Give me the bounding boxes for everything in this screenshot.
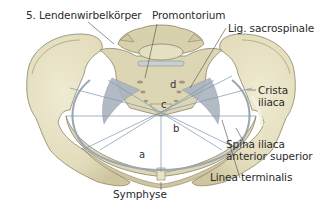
label-spina-iliaca-line2: anterior superior: [226, 151, 313, 162]
vertebral-body: [139, 44, 183, 60]
pelvis-diagram: 5. Lendenwirbelkörper Promontorium Lig. …: [0, 0, 322, 204]
label-crista-iliaca-line1: Crista: [258, 85, 288, 96]
label-lig-sacrospinale: Lig. sacrospinale: [228, 23, 314, 34]
label-spina-iliaca-line1: Spina iliaca: [226, 139, 285, 150]
measurement-a: a: [139, 150, 145, 160]
measurement-b: b: [173, 124, 179, 134]
label-symphyse: Symphyse: [113, 189, 167, 200]
measurement-c: c: [161, 100, 167, 110]
label-promontorium: Promontorium: [152, 10, 225, 21]
intervertebral-disc: [138, 61, 184, 66]
measurement-d: d: [170, 80, 176, 90]
label-crista-iliaca-line2: iliaca: [258, 97, 285, 108]
label-5-lendenwirbelkoerper: 5. Lendenwirbelkörper: [26, 10, 142, 21]
label-linea-terminalis: Linea terminalis: [210, 172, 292, 183]
